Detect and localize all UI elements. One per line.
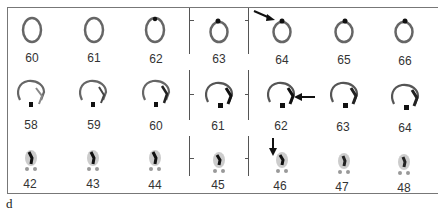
sagittal-slice-image xyxy=(388,82,422,114)
slice-label: 65 xyxy=(319,53,369,67)
tick xyxy=(245,20,249,21)
slice-label: 60 xyxy=(7,51,57,65)
divider-right-row2 xyxy=(248,70,249,120)
slice-label: 64 xyxy=(257,53,307,67)
axial-slice-image xyxy=(20,14,44,46)
slice-label: 63 xyxy=(194,52,244,66)
coronal-slice-image xyxy=(146,148,164,174)
slice-label: 44 xyxy=(130,178,180,192)
arrow-down-right-icon xyxy=(253,9,277,23)
coronal-slice-image xyxy=(22,148,40,174)
slice-label: 43 xyxy=(68,177,118,191)
coronal-slice-image xyxy=(395,152,413,178)
arrow-down-icon xyxy=(268,138,278,156)
slice-label: 58 xyxy=(6,118,56,132)
axial-slice-image xyxy=(332,14,356,46)
coronal-slice-image xyxy=(335,151,353,177)
slice-label: 61 xyxy=(193,119,243,133)
slice-label: 62 xyxy=(256,119,306,133)
tick xyxy=(245,158,249,159)
arrow-left-icon xyxy=(294,92,316,102)
coronal-slice-image xyxy=(84,148,102,174)
sagittal-slice-image xyxy=(202,80,236,112)
tick xyxy=(190,94,194,95)
slice-label: 47 xyxy=(317,180,367,194)
slice-label: 45 xyxy=(193,178,243,192)
slice-label: 62 xyxy=(131,52,181,66)
coronal-slice-image xyxy=(210,150,228,176)
divider-right-row3 xyxy=(248,136,249,176)
slice-label: 61 xyxy=(69,51,119,65)
sagittal-slice-image xyxy=(14,78,48,110)
sagittal-slice-image xyxy=(327,80,361,112)
slice-label: 46 xyxy=(255,179,305,193)
axial-slice-image xyxy=(207,14,231,46)
slice-label: 64 xyxy=(380,121,430,135)
tick xyxy=(190,20,194,21)
divider-left-row2 xyxy=(189,70,190,120)
tick xyxy=(190,158,194,159)
divider-left-row3 xyxy=(189,136,190,176)
tick xyxy=(245,94,249,95)
sagittal-slice-image xyxy=(76,78,110,110)
slice-label: 42 xyxy=(5,177,55,191)
divider-right-row1 xyxy=(248,8,249,54)
slice-label: 66 xyxy=(380,54,430,68)
slice-label: 60 xyxy=(131,119,181,133)
axial-slice-image xyxy=(143,14,167,46)
axial-slice-image xyxy=(392,14,416,46)
sagittal-slice-image xyxy=(264,80,298,112)
slice-label: 59 xyxy=(69,118,119,132)
divider-left-row1 xyxy=(189,8,190,54)
axial-slice-image xyxy=(82,14,106,46)
panel-label: d xyxy=(6,196,13,212)
sagittal-slice-image xyxy=(139,78,173,110)
slice-label: 48 xyxy=(379,181,429,195)
slice-label: 63 xyxy=(318,120,368,134)
